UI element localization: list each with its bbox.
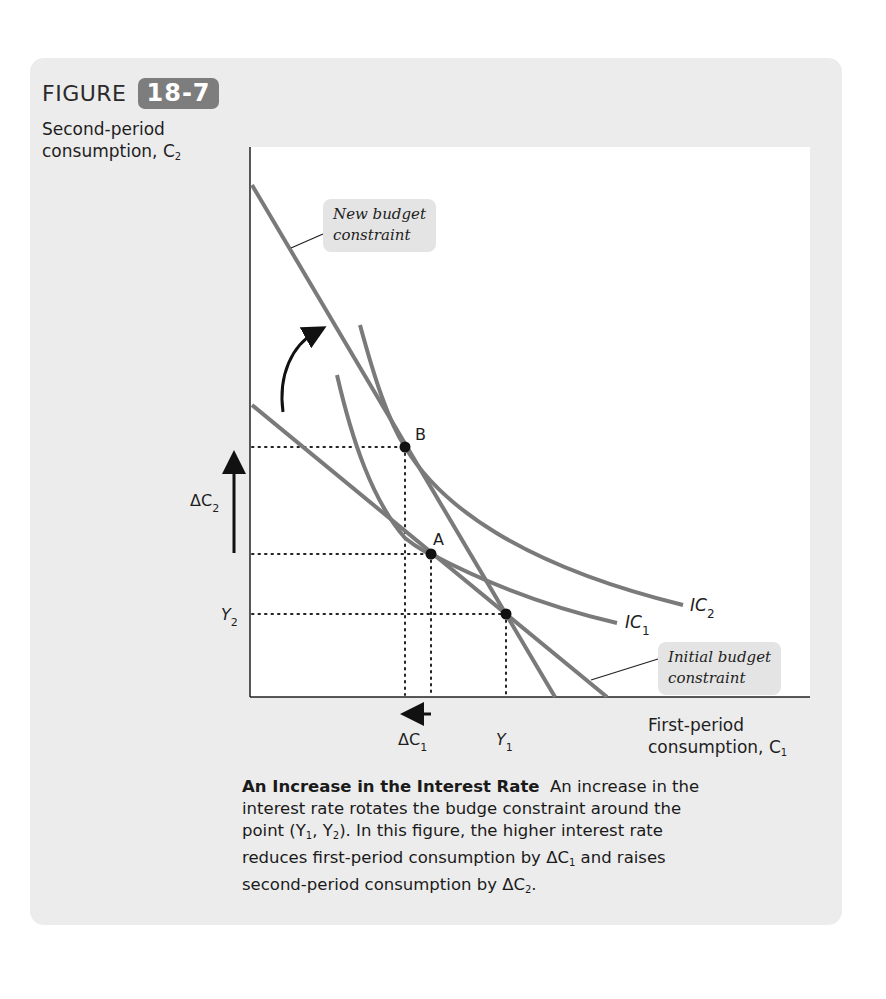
new-budget-leader <box>291 234 323 248</box>
rotation-arrow-icon <box>282 332 316 412</box>
point-b <box>400 442 411 453</box>
x-axis-label: First-period consumption, C1 <box>648 714 787 764</box>
point-a <box>426 549 437 560</box>
delta-c2-label: ΔC2 <box>190 491 219 515</box>
y2-label: Y2 <box>221 605 238 629</box>
caption-title: An Increase in the Interest Rate <box>242 777 540 796</box>
ic2-curve <box>360 325 683 605</box>
initial-budget-leader <box>591 659 658 680</box>
figure-caption: An Increase in the Interest Rate An incr… <box>242 776 822 901</box>
ic2-label: IC2 <box>690 595 715 621</box>
point-a-label: A <box>433 530 444 549</box>
ic1-curve <box>337 375 617 623</box>
initial-budget-callout: Initial budget constraint <box>658 642 781 695</box>
y1-label: Y1 <box>496 730 513 754</box>
point-b-label: B <box>415 425 426 444</box>
new-budget-callout: New budget constraint <box>323 199 436 252</box>
endowment-point <box>501 609 512 620</box>
delta-c1-label: ΔC1 <box>398 730 427 754</box>
ic1-label: IC1 <box>625 612 650 638</box>
